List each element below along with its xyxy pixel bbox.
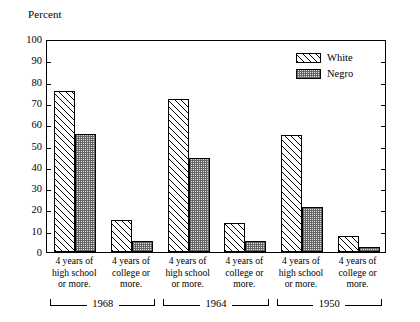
category-label-line: college or [216,267,273,279]
bar-negro-2 [132,241,153,252]
y-tick-label: 20 [16,205,42,215]
category-label-line: or more. [159,278,216,290]
bar-negro-4 [245,241,266,252]
category-label-line: more. [103,278,160,290]
bracket-line-right [119,305,156,306]
y-tick-label: 0 [16,248,42,258]
group-year-label: 1968 [89,296,116,311]
category-label-2: 4 years ofcollege ormore. [103,255,160,290]
bar-negro-5 [302,207,323,252]
category-label-line: more. [329,278,386,290]
bracket-line-left [277,305,314,306]
category-label-line: high school [273,267,330,279]
y-axis-tick-labels: 100 90 80 70 60 50 40 30 20 10 0 [8,40,42,253]
bar-white-1 [54,91,75,252]
bar-negro-3 [189,158,210,252]
y-tick-label: 50 [16,142,42,152]
y-tick-label: 70 [16,99,42,109]
legend-swatch-negro-icon [296,69,321,79]
chart-legend: White Negro [296,51,380,83]
category-label-line: more. [216,278,273,290]
category-label-line: or more. [46,278,103,290]
category-label-5: 4 years ofhigh schoolor more. [273,255,330,290]
category-label-line: 4 years of [159,255,216,267]
category-label-line: 4 years of [329,255,386,267]
y-tick-label: 40 [16,163,42,173]
y-tick-label: 60 [16,120,42,130]
group-bracket-1964: 1964 [163,296,268,312]
category-label-line: college or [103,267,160,279]
category-label-line: 4 years of [103,255,160,267]
group-year-label: 1950 [316,296,343,311]
y-tick-label: 30 [16,184,42,194]
category-label-4: 4 years ofcollege ormore. [216,255,273,290]
y-tick-label: 90 [16,56,42,66]
category-label-line: high school [46,267,103,279]
legend-label-white: White [327,52,353,63]
bar-chart: Percent 100 90 80 70 60 50 40 30 20 10 0 [0,0,420,322]
legend-swatch-white-icon [296,53,321,63]
bar-negro-1 [75,134,96,252]
bar-negro-6 [359,247,380,252]
bar-white-4 [224,223,245,252]
category-label-line: high school [159,267,216,279]
group-bracket-1950: 1950 [277,296,382,312]
y-tick-label: 100 [16,35,42,45]
group-bracket-1968: 1968 [50,296,155,312]
category-labels: 4 years ofhigh schoolor more.4 years ofc… [46,255,386,291]
group-brackets: 196819641950 [46,296,386,316]
bracket-line-right [232,305,269,306]
y-tick-label: 10 [16,227,42,237]
category-label-line: 4 years of [46,255,103,267]
y-axis-title: Percent [28,8,62,20]
y-tick-label: 80 [16,78,42,88]
category-label-line: college or [329,267,386,279]
category-label-1: 4 years ofhigh schoolor more. [46,255,103,290]
category-label-line: or more. [273,278,330,290]
category-label-3: 4 years ofhigh schoolor more. [159,255,216,290]
category-label-line: 4 years of [216,255,273,267]
group-year-label: 1964 [202,296,229,311]
bracket-line-right [345,305,382,306]
legend-item-negro: Negro [296,67,380,80]
bracket-line-left [163,305,200,306]
legend-label-negro: Negro [327,68,353,79]
bracket-line-left [50,305,87,306]
legend-item-white: White [296,51,380,64]
bar-white-5 [281,135,302,252]
bar-white-2 [111,220,132,252]
bar-white-3 [168,99,189,252]
bar-white-6 [338,236,359,252]
category-label-6: 4 years ofcollege ormore. [329,255,386,290]
category-label-line: 4 years of [273,255,330,267]
